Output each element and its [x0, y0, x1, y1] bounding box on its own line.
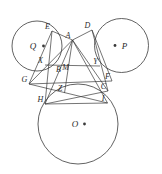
segment-D-A	[73, 30, 93, 40]
point-label-C: C	[101, 83, 106, 91]
point-label-M: M	[62, 64, 69, 72]
segment-E-H	[45, 31, 52, 104]
segment-G-F	[29, 81, 112, 84]
circle-P-center-dot	[114, 44, 117, 47]
point-label-B: B	[56, 66, 61, 74]
point-label-E: E	[45, 23, 50, 31]
point-label-G: G	[22, 76, 28, 84]
geometry-figure: QPOEADXMYBGZFCHI	[0, 0, 162, 174]
center-label-Q: Q	[30, 42, 37, 50]
segment-H-I	[45, 103, 108, 104]
circle-O-center-dot	[83, 123, 86, 126]
point-label-A: A	[66, 32, 71, 40]
point-label-F: F	[105, 73, 110, 81]
point-label-Z: Z	[58, 85, 62, 93]
point-label-H: H	[38, 96, 44, 104]
center-label-P: P	[122, 42, 128, 50]
circle-Q-center-dot	[42, 45, 45, 48]
center-label-O: O	[72, 120, 79, 128]
point-label-I: I	[102, 95, 105, 103]
segment-X-Y	[45, 65, 100, 66]
point-label-D: D	[85, 22, 91, 30]
figure-canvas	[0, 0, 162, 174]
point-label-X: X	[38, 57, 43, 65]
circle-Q	[12, 21, 62, 71]
segments-group	[29, 30, 112, 104]
segment-H-C	[45, 91, 108, 104]
point-label-Y: Y	[93, 58, 97, 66]
